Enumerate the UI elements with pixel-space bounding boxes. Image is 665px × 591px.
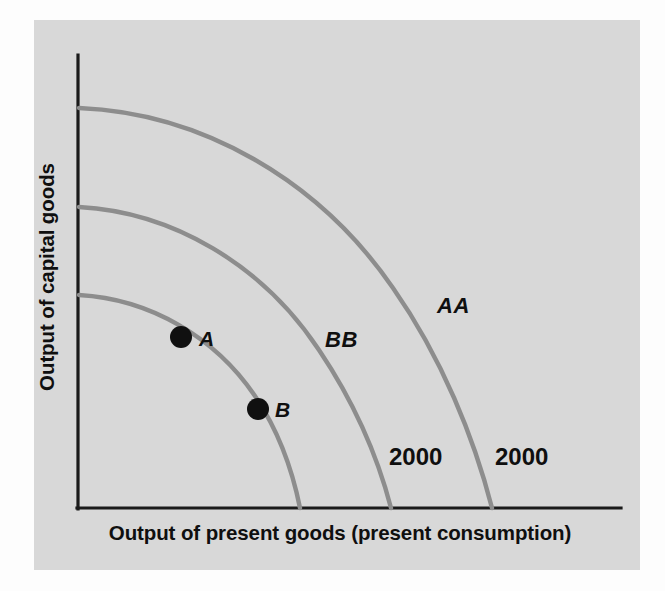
ppf-curve-bb <box>79 207 391 508</box>
point-b-marker <box>247 398 269 420</box>
year-label-aa: 2000 <box>495 443 548 470</box>
figure-page: A B AA BB 2000 2000 Output of capital go… <box>0 0 665 591</box>
curve-label-bb: BB <box>325 327 358 352</box>
year-label-bb: 2000 <box>389 443 442 470</box>
y-axis-title: Output of capital goods <box>35 127 59 427</box>
point-b-label: B <box>275 398 290 421</box>
ppf-curve-inner <box>79 295 300 508</box>
curve-label-aa: AA <box>436 293 470 318</box>
x-axis-title: Output of present goods (present consump… <box>50 521 630 545</box>
point-a-label: A <box>198 327 214 350</box>
point-a-marker <box>170 326 192 348</box>
ppf-plot: A B AA BB 2000 2000 <box>0 0 665 591</box>
